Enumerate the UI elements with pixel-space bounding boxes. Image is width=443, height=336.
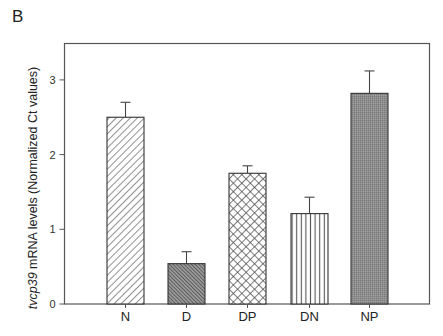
bar-chart: 0123 NDDPDNNP tvcp39 mRNA levels (Normal… (0, 0, 443, 336)
y-tick-label: 2 (49, 149, 55, 161)
x-axis-labels: NDDPDNNP (121, 304, 379, 324)
x-tick-label: DP (238, 309, 256, 324)
bar-rect (168, 264, 205, 304)
y-tick-label: 1 (49, 223, 55, 235)
bar-rect (291, 214, 328, 304)
x-tick-label: DN (300, 309, 319, 324)
bar-dn (291, 197, 328, 304)
bar-rect (229, 173, 266, 304)
y-tick-label: 0 (49, 298, 55, 310)
y-axis: 0123 (49, 74, 64, 310)
bar-n (107, 102, 144, 304)
y-axis-label: tvcp39 mRNA levels (Normalized Ct values… (26, 67, 40, 309)
x-tick-label: NP (360, 309, 378, 324)
bar-rect (351, 93, 388, 304)
bar-rect (107, 117, 144, 304)
bar-dp (229, 166, 266, 304)
x-tick-label: D (182, 309, 191, 324)
x-tick-label: N (121, 309, 130, 324)
y-tick-label: 3 (49, 74, 55, 86)
bar-np (351, 71, 388, 304)
bar-d (168, 252, 205, 304)
bars-group (107, 71, 388, 304)
